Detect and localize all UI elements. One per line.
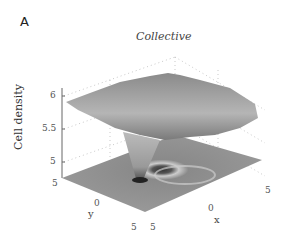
y-axis-label: y [88, 208, 94, 219]
base-plane [62, 135, 262, 212]
x-tick-0: 0 [208, 203, 214, 213]
z-tick-6: 6 [50, 90, 56, 100]
density-surface [66, 73, 258, 140]
z-tick-5-5: 5.5 [42, 123, 56, 133]
y-tick-0: 0 [94, 198, 100, 208]
y-tick-neg5: 5 [52, 178, 58, 188]
surface-plot [0, 0, 287, 244]
y-tick-5: 5 [131, 222, 137, 232]
x-axis-label: x [214, 214, 220, 225]
x-tick-neg5: 5 [150, 222, 156, 232]
x-tick-5: 5 [265, 185, 271, 195]
z-tick-5: 5 [50, 156, 56, 166]
